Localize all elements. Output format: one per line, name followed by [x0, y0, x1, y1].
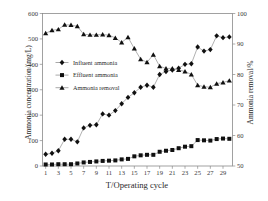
data-point-diamond: [138, 85, 143, 90]
y-right-tick-label: 80: [237, 71, 244, 78]
legend-item: Influent ammonia: [56, 59, 118, 66]
data-point-square: [107, 159, 111, 163]
y-left-tick-label: 400: [28, 61, 39, 68]
data-point-square: [151, 153, 155, 157]
x-tick-label: 21: [169, 169, 176, 176]
data-point-square: [145, 153, 149, 157]
x-tick-label: 15: [131, 169, 138, 176]
data-point-square: [101, 159, 105, 163]
y-axis-left-ticks: 0100200300400500600: [28, 10, 42, 170]
legend-marker-diamond: [60, 60, 65, 65]
data-series-layer: [43, 22, 232, 166]
x-axis-ticks: 1357911131517192123252729: [44, 166, 227, 176]
y-right-tick-label: 60: [237, 132, 244, 139]
legend-item: Ammonia removal: [56, 84, 120, 91]
data-point-diamond: [214, 33, 219, 38]
data-point-triangle: [195, 83, 200, 87]
data-point-triangle: [43, 31, 48, 35]
data-point-triangle: [189, 72, 194, 76]
data-point-triangle: [151, 52, 156, 56]
data-point-triangle: [125, 35, 130, 39]
legend-label: Influent ammonia: [73, 59, 117, 66]
x-tick-label: 1: [44, 169, 47, 176]
data-point-square: [113, 158, 117, 162]
data-point-diamond: [189, 61, 194, 66]
data-point-diamond: [157, 72, 162, 77]
data-point-square: [170, 148, 174, 152]
data-point-square: [189, 144, 193, 148]
data-point-square: [126, 157, 130, 161]
data-point-square: [177, 146, 181, 150]
y-left-tick-label: 300: [28, 86, 39, 93]
data-point-triangle: [56, 27, 61, 31]
y-right-tick-label: 90: [237, 40, 244, 47]
data-point-square: [63, 162, 67, 166]
y-left-tick-label: 200: [28, 111, 39, 118]
plot-canvas: 0100200300400500600 5060708090100 135791…: [0, 0, 268, 201]
data-point-diamond: [202, 48, 207, 53]
data-point-square: [221, 137, 225, 141]
data-point-triangle: [100, 32, 105, 36]
data-point-square: [44, 162, 48, 166]
data-point-diamond: [107, 112, 112, 117]
x-tick-label: 29: [220, 169, 227, 176]
data-point-square: [69, 162, 73, 166]
legend-label: Effluent ammonia: [73, 71, 118, 78]
legend-item: Effluent ammonia: [56, 71, 118, 78]
y-right-tick-label: 100: [237, 10, 248, 17]
data-point-diamond: [183, 62, 188, 67]
chart-legend: Influent ammoniaEffluent ammoniaAmmonia …: [56, 59, 120, 91]
data-point-diamond: [100, 111, 105, 116]
series-line: [46, 139, 230, 165]
data-point-square: [208, 139, 212, 143]
data-point-diamond: [208, 47, 213, 52]
data-point-triangle: [62, 22, 67, 26]
data-point-triangle: [220, 80, 225, 84]
data-point-diamond: [81, 125, 86, 130]
data-point-diamond: [94, 122, 99, 127]
x-tick-label: 17: [144, 169, 151, 176]
x-tick-label: 13: [118, 169, 125, 176]
data-point-square: [139, 153, 143, 157]
y-left-tick-label: 0: [35, 162, 39, 169]
data-point-diamond: [75, 139, 80, 144]
x-tick-label: 25: [194, 169, 201, 176]
y-right-tick-label: 50: [237, 162, 244, 169]
data-point-diamond: [62, 137, 67, 142]
data-point-diamond: [88, 123, 93, 128]
x-tick-label: 11: [106, 169, 112, 176]
y-axis-right-ticks: 5060708090100: [233, 10, 248, 170]
y-left-tick-label: 600: [28, 10, 39, 17]
data-point-diamond: [227, 34, 232, 39]
data-point-square: [196, 138, 200, 142]
data-point-diamond: [221, 35, 226, 40]
data-point-triangle: [157, 64, 162, 68]
data-point-diamond: [69, 137, 74, 142]
data-point-square: [75, 161, 79, 165]
x-tick-label: 23: [182, 169, 189, 176]
x-tick-label: 19: [156, 169, 163, 176]
data-point-square: [120, 157, 124, 161]
data-point-diamond: [56, 148, 61, 153]
data-point-square: [164, 149, 168, 153]
x-tick-label: 7: [82, 169, 86, 176]
data-point-diamond: [132, 90, 137, 95]
y-right-tick-label: 70: [237, 101, 244, 108]
data-point-square: [158, 150, 162, 154]
x-tick-label: 27: [207, 169, 214, 176]
legend-label: Ammonia removal: [73, 84, 120, 91]
data-point-square: [202, 138, 206, 142]
legend-marker-square: [60, 73, 64, 77]
data-point-triangle: [138, 57, 143, 61]
data-point-triangle: [113, 35, 118, 39]
data-point-diamond: [195, 44, 200, 49]
series-3: [43, 22, 232, 89]
data-point-triangle: [227, 78, 232, 82]
data-point-square: [50, 162, 54, 166]
data-point-square: [132, 154, 136, 158]
data-point-triangle: [132, 46, 137, 50]
data-point-square: [56, 162, 60, 166]
data-point-diamond: [145, 82, 150, 87]
chart-figure: Ammonia concentration/(mg/L) Ammonia rem…: [0, 0, 268, 201]
data-point-diamond: [43, 152, 48, 157]
